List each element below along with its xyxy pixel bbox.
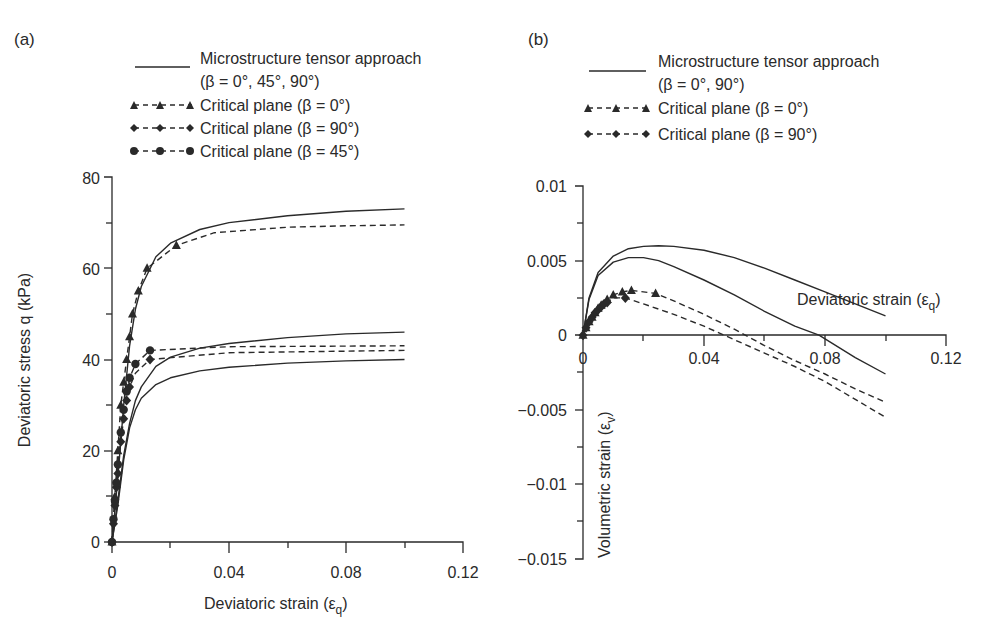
circle-marker [120, 405, 128, 413]
svg-text:0.04: 0.04 [688, 350, 719, 367]
panel-a: (a) Microstructure tensor approach (β = … [14, 30, 479, 617]
panel-b: (b) Microstructure tensor approach (β = … [518, 30, 962, 568]
legend-circle-label: Critical plane (β = 45°) [200, 143, 359, 160]
svg-text:0: 0 [579, 350, 588, 367]
legend-solid-sublabel: (β = 0°, 45°, 90°) [200, 73, 320, 90]
circle-marker [112, 478, 120, 486]
svg-text:0: 0 [91, 534, 100, 551]
panel-b-axes [575, 186, 946, 559]
legend-solid-label: Microstructure tensor approach [200, 50, 421, 67]
circle-marker [125, 374, 133, 382]
svg-text:−0.015: −0.015 [518, 551, 567, 568]
series-line [112, 332, 405, 542]
triangle-marker [627, 285, 636, 294]
triangle-marker [125, 332, 134, 341]
legend-solid-sublabel: (β = 0°, 90°) [658, 76, 744, 93]
svg-text:0.01: 0.01 [536, 178, 567, 195]
circle-marker [122, 387, 130, 395]
panel-b-legend: Microstructure tensor approach (β = 0°, … [584, 53, 879, 143]
legend-triangle-marker-icon [584, 104, 650, 112]
diamond-marker [146, 355, 155, 365]
svg-text:0.12: 0.12 [447, 564, 478, 581]
circle-marker [131, 360, 139, 368]
circle-marker [146, 346, 154, 354]
circle-marker [114, 460, 122, 468]
panel-a-legend: Microstructure tensor approach (β = 0°, … [130, 50, 421, 160]
panel-a-y-ticklabels: 0 20 40 60 80 [82, 170, 100, 551]
panel-a-plot-area [108, 209, 405, 547]
legend-diamond-marker-icon [130, 124, 194, 132]
panel-a-label: (a) [14, 30, 35, 49]
series-line [112, 209, 405, 542]
triangle-marker [122, 355, 131, 364]
circle-marker [111, 497, 119, 505]
panel-a-x-axis-label: Deviatoric strain (εq) [204, 595, 348, 617]
svg-text:0: 0 [558, 327, 567, 344]
legend-solid-label: Microstructure tensor approach [658, 53, 879, 70]
legend-diamond-marker-icon [584, 130, 650, 138]
panel-a-y-axis-label: Deviatoric stress q (kPa) [16, 273, 33, 447]
legend-triangle-label: Critical plane (β = 0°) [658, 100, 808, 117]
series-line [112, 225, 405, 542]
panel-b-y-axis-label: Volumetric strain (εv) [596, 412, 618, 559]
circle-marker [109, 515, 117, 523]
legend-diamond-label: Critical plane (β = 90°) [658, 126, 817, 143]
legend-triangle-label: Critical plane (β = 0°) [200, 97, 350, 114]
svg-text:80: 80 [82, 170, 100, 187]
svg-text:0: 0 [108, 564, 117, 581]
legend-circle-marker-icon [130, 147, 194, 155]
panel-b-x-ticklabels: 0 0.04 0.08 0.12 [579, 350, 962, 367]
diamond-marker [119, 414, 128, 424]
svg-text:60: 60 [82, 261, 100, 278]
svg-text:0.08: 0.08 [809, 350, 840, 367]
svg-text:0.005: 0.005 [527, 253, 567, 270]
svg-text:20: 20 [82, 443, 100, 460]
circle-marker [117, 428, 125, 436]
svg-text:0.08: 0.08 [330, 564, 361, 581]
legend-triangle-marker-icon [130, 101, 194, 109]
svg-text:40: 40 [82, 352, 100, 369]
panel-a-x-ticklabels: 0 0.04 0.08 0.12 [108, 564, 479, 581]
panel-b-label: (b) [528, 30, 549, 49]
legend-diamond-label: Critical plane (β = 90°) [200, 120, 359, 137]
svg-text:−0.01: −0.01 [527, 476, 568, 493]
svg-text:−0.005: −0.005 [518, 402, 567, 419]
series-line [112, 350, 405, 542]
svg-text:0.12: 0.12 [930, 350, 961, 367]
circle-marker [108, 538, 116, 546]
series-line [112, 346, 405, 542]
series-line [112, 360, 405, 543]
figure: (a) Microstructure tensor approach (β = … [0, 0, 999, 644]
panel-b-y-ticklabels: 0.01 0.005 0 −0.005 −0.01 −0.015 [518, 178, 567, 568]
svg-text:0.04: 0.04 [213, 564, 244, 581]
panel-b-plot-area [579, 246, 886, 418]
